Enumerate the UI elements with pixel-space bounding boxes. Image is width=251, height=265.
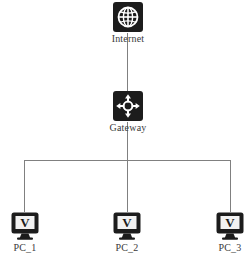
node-pc3-label: PC_3	[218, 242, 241, 254]
monitor-v-icon: V	[10, 211, 40, 241]
node-pc1-label: PC_1	[13, 242, 36, 254]
svg-text:V: V	[225, 215, 235, 230]
svg-text:V: V	[122, 215, 132, 230]
node-internet-label: Internet	[112, 33, 145, 45]
network-topology-diagram: Internet Gateway	[0, 0, 251, 265]
node-internet[interactable]: Internet	[98, 2, 158, 45]
node-pc1[interactable]: V PC_1	[0, 211, 55, 254]
monitor-v-icon: V	[215, 211, 245, 241]
globe-icon	[113, 2, 143, 32]
monitor-v-icon: V	[112, 211, 142, 241]
node-pc3[interactable]: V PC_3	[200, 211, 251, 254]
svg-text:V: V	[20, 215, 30, 230]
node-gateway[interactable]: Gateway	[98, 91, 158, 134]
node-gateway-label: Gateway	[110, 122, 147, 134]
node-pc2-label: PC_2	[115, 242, 138, 254]
router-four-way-arrow-icon	[113, 91, 143, 121]
node-pc2[interactable]: V PC_2	[97, 211, 157, 254]
